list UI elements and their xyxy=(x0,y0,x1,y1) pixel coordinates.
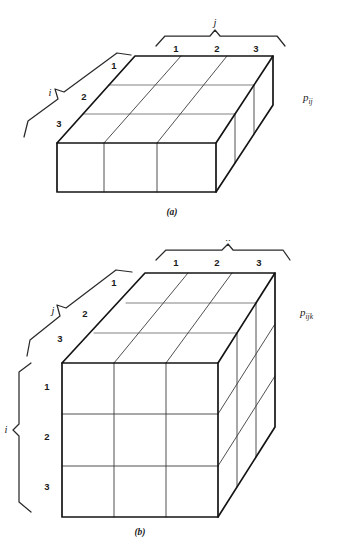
axis-label-j-b: j xyxy=(50,305,55,316)
tick-k-1: 1 xyxy=(173,257,179,268)
figure-b-array-label: pijk xyxy=(299,306,314,321)
tick-i-b-3: 3 xyxy=(44,481,49,492)
tick-i-1: 1 xyxy=(111,60,117,71)
tick-j-b-3: 3 xyxy=(57,333,62,344)
tick-j-b-1: 1 xyxy=(111,277,117,288)
figure-b-left-brace: i 1 2 3 xyxy=(5,363,51,512)
tick-j-2: 2 xyxy=(214,43,219,54)
figure-b-svg: k 1 2 3 j 1 2 3 i 1 2 3 xyxy=(0,240,345,556)
axis-label-i: i xyxy=(49,87,52,98)
p-label-a: pij xyxy=(302,91,313,106)
p-subscript-a: ij xyxy=(309,97,313,106)
front-face xyxy=(57,143,216,192)
figure-a-box xyxy=(57,56,273,192)
tick-k-2: 2 xyxy=(214,257,219,268)
figure-b-top-brace: k 1 2 3 xyxy=(156,240,290,268)
axis-label-j: j xyxy=(212,17,217,28)
figure-a-top-brace: j 1 2 3 xyxy=(156,17,285,54)
brace-i-path-b xyxy=(13,363,31,512)
p-subscript-b: ijk xyxy=(306,312,314,321)
tick-k-3: 3 xyxy=(256,257,261,268)
figure-a: j 1 2 3 i 1 2 3 xyxy=(0,0,345,240)
axis-label-i-b: i xyxy=(5,424,8,435)
tick-j-b-2: 2 xyxy=(82,308,87,319)
figure-b-cube xyxy=(62,273,275,517)
tick-i-2: 2 xyxy=(81,91,86,102)
tick-i-b-1: 1 xyxy=(44,381,50,392)
front-face-b xyxy=(62,363,218,517)
figure-a-svg: j 1 2 3 i 1 2 3 xyxy=(0,0,345,240)
axis-label-k: k xyxy=(226,240,231,243)
tick-i-b-2: 2 xyxy=(44,431,49,442)
tick-j-1: 1 xyxy=(173,43,179,54)
tick-j-3: 3 xyxy=(253,43,258,54)
figure-a-array-label: pij xyxy=(302,91,313,106)
p-label-b: pijk xyxy=(299,306,314,321)
tick-i-3: 3 xyxy=(56,118,61,129)
figure-a-caption: (a) xyxy=(166,207,177,218)
figure-b-caption: (b) xyxy=(134,527,145,538)
figure-b: k 1 2 3 j 1 2 3 i 1 2 3 xyxy=(0,240,345,556)
